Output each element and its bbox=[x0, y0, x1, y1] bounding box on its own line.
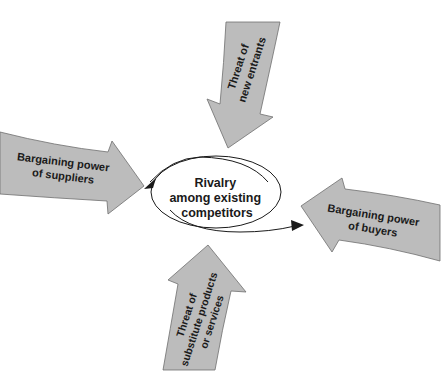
force-arrow-buyers: Bargaining power of buyers bbox=[301, 178, 440, 261]
center-label-line: competitors bbox=[181, 206, 253, 220]
force-arrow-new-entrants: Threat of new entrants bbox=[207, 22, 280, 148]
center-label-line: Rivalry bbox=[194, 176, 236, 190]
force-arrow-substitutes: Threat of substitute products or service… bbox=[163, 245, 246, 372]
svg-text:Rivalry among existing: Rivalry among existing competitors bbox=[169, 176, 264, 220]
rivalry-center: Rivalry among existing competitors bbox=[144, 156, 304, 232]
arrowhead-icon bbox=[291, 220, 304, 231]
center-label-line: among existing bbox=[169, 191, 261, 205]
force-arrow-suppliers: Bargaining power of suppliers bbox=[0, 132, 144, 214]
five-forces-diagram: Threat of new entrants Bargaining power … bbox=[0, 0, 442, 377]
